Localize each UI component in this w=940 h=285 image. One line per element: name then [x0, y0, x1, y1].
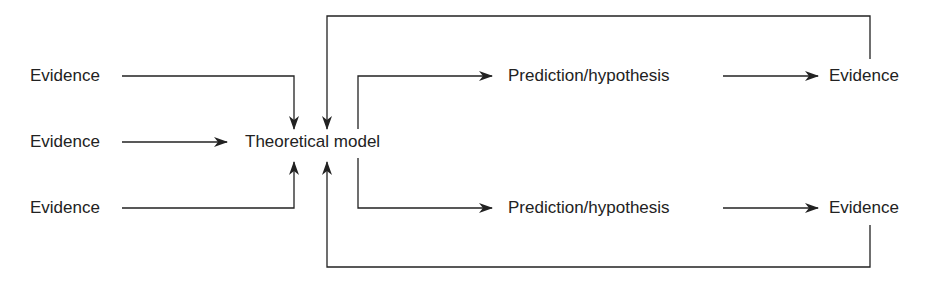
evidence-output-1: Evidence	[829, 66, 899, 86]
arrow-evidence-3-to-model	[122, 162, 294, 208]
arrow-evidence-1-to-model	[122, 76, 294, 129]
arrow-model-to-prediction-2	[358, 158, 492, 208]
prediction-hypothesis-2: Prediction/hypothesis	[508, 198, 670, 218]
evidence-input-1: Evidence	[30, 66, 100, 86]
arrow-model-to-prediction-1	[358, 76, 492, 129]
evidence-input-3: Evidence	[30, 198, 100, 218]
diagram-canvas: Evidence Evidence Evidence Theoretical m…	[0, 0, 940, 285]
evidence-input-2: Evidence	[30, 132, 100, 152]
evidence-output-2: Evidence	[829, 198, 899, 218]
connector-lines	[0, 0, 940, 285]
prediction-hypothesis-1: Prediction/hypothesis	[508, 66, 670, 86]
theoretical-model: Theoretical model	[245, 132, 380, 152]
